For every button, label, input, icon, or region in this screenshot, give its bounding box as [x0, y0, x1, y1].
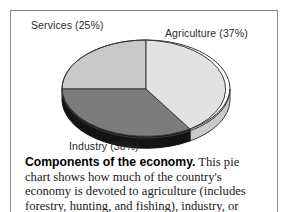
pie-label-agriculture: Agriculture (37%): [165, 27, 248, 39]
pie-label-industry: Industry (38%): [69, 140, 139, 152]
pie-label-services: Services (25%): [31, 19, 104, 31]
caption-lead: Components of the economy.: [25, 155, 195, 169]
figure-caption: Components of the economy. This pie char…: [25, 155, 265, 212]
pie-chart: Services (25%) Agriculture (37%) Industr…: [11, 11, 277, 157]
figure-frame: Services (25%) Agriculture (37%) Industr…: [10, 10, 278, 212]
pie-slice-services: [62, 40, 146, 89]
